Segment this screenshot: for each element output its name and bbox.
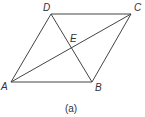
figure-caption: (a) bbox=[65, 103, 77, 114]
edge-bc bbox=[92, 14, 131, 82]
vertex-label-c: C bbox=[134, 2, 142, 13]
diagonal-db bbox=[51, 14, 92, 82]
parallelogram-diagram: A B C D E (a) bbox=[0, 0, 145, 117]
intersection-label-e: E bbox=[70, 33, 77, 44]
vertex-label-a: A bbox=[0, 81, 8, 92]
vertex-label-d: D bbox=[43, 2, 50, 13]
edge-da bbox=[11, 14, 51, 82]
vertex-label-b: B bbox=[95, 82, 102, 93]
